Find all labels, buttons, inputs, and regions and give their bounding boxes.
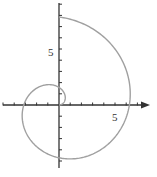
x-tick-label-5: 5 [112,111,118,123]
y-tick-label-5: 5 [48,46,54,58]
axes [3,3,150,168]
spiral-curve [22,17,130,159]
x-axis-arrow-icon [141,102,150,109]
polar-spiral-chart: 5 5 [0,0,157,177]
